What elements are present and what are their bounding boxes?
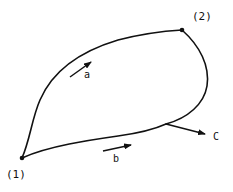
point-1-label: (1) <box>6 169 26 180</box>
path-right-curve <box>166 30 208 124</box>
point-2-dot <box>180 28 185 33</box>
arrow-c-label: C <box>213 132 219 142</box>
path-b-curve <box>22 124 166 158</box>
arrow-c-icon <box>166 124 205 134</box>
arrow-b-icon <box>103 145 131 151</box>
point-1-dot <box>20 156 25 161</box>
point-2-label: (2) <box>192 11 212 22</box>
path-b-label: b <box>113 154 119 164</box>
path-a-label: a <box>84 70 90 80</box>
